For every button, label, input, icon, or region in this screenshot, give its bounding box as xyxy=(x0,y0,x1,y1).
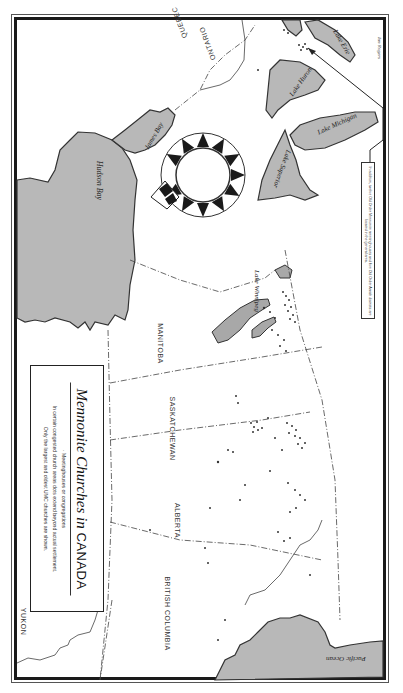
lake-erie-shape xyxy=(305,20,355,62)
label-yukon: YUKON xyxy=(20,608,27,635)
boundary-alberta-sask xyxy=(110,347,322,383)
pacific-ocean-shape xyxy=(215,615,383,680)
boundary-bc-alberta xyxy=(110,412,310,440)
compass-rose xyxy=(151,133,245,217)
lake-ontario-shape xyxy=(282,20,302,36)
boundary-us-south xyxy=(285,250,340,620)
label-alberta: ALBERTA xyxy=(174,503,181,538)
label-british-columbia: BRITISH COLUMBIA xyxy=(164,576,171,650)
hudson-bay-shape xyxy=(17,132,137,330)
label-manitoba: MANITOBA xyxy=(157,323,164,363)
label-pacific-ocean: Pacific Ocean xyxy=(326,655,366,663)
map-title: Mennonite Churches in CANADA xyxy=(71,382,91,595)
lake-manitoba-shape xyxy=(252,317,276,338)
lake-winnipeg-shape xyxy=(212,299,270,343)
inset-note-text: In addition, twelve Old Order Mennonite … xyxy=(362,163,374,318)
legend-note-2: Only the largest and oldest UMC churches… xyxy=(44,426,50,550)
cartographer-signature: Ian Rogers xyxy=(372,33,386,63)
label-saskatchewan: SASKATCHEWAN xyxy=(169,397,176,461)
lake-northern-shape xyxy=(275,265,292,278)
map-legend: Mennonite Churches in CANADA · Meetingho… xyxy=(30,365,104,612)
boundary-yukon xyxy=(100,600,112,680)
boundary-sask-manitoba xyxy=(110,522,322,560)
alberta-us-boundary xyxy=(245,520,322,605)
boundary-ontario-quebec xyxy=(175,25,255,110)
yukon-boundary xyxy=(17,610,102,663)
inset-note-box: In addition, twelve Old Order Mennonite … xyxy=(361,162,375,319)
lake-michigan-shape xyxy=(290,112,378,150)
label-hudson-bay: Hudson Bay xyxy=(95,161,104,200)
legend-note-1: In certain congested church areas dots e… xyxy=(53,405,59,572)
legend-symbol-key: · Meetinghouses or congregations xyxy=(62,449,68,527)
label-lake-winnipeg: Lake Winnipeg xyxy=(253,270,261,312)
